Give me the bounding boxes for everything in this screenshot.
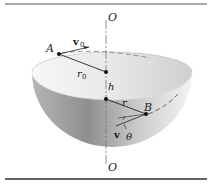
axis-bottom-label: O (108, 161, 117, 174)
point-center-lower (104, 97, 108, 101)
radius-r0-subscript: 0 (82, 73, 86, 81)
height-label: h (108, 81, 114, 92)
point-a (57, 52, 61, 56)
point-center-top (104, 70, 108, 74)
velocity-v0-label: v (72, 36, 80, 47)
angle-theta-label: θ (126, 131, 132, 142)
velocity-v-label: v (113, 129, 121, 140)
axis-top-label: O (108, 11, 117, 24)
hemispherical-bowl-diagram: O O A B v 0 r 0 h r v θ (0, 0, 211, 185)
point-b-label: B (143, 101, 152, 114)
velocity-v0-subscript: 0 (80, 41, 84, 49)
point-a-label: A (45, 42, 54, 55)
